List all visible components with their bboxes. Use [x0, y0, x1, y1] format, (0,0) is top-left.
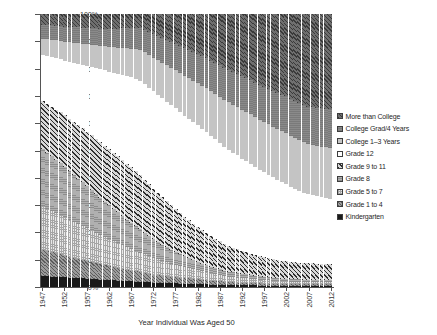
bar-segment — [178, 73, 182, 112]
bar-column — [258, 14, 262, 287]
bar-segment — [267, 175, 271, 258]
bar-segment — [205, 14, 209, 58]
bar-segment — [200, 271, 204, 279]
x-axis-title: Year Individual Was Aged 50 — [0, 318, 373, 327]
bar-segment — [68, 27, 72, 42]
bar-segment — [222, 285, 226, 287]
bar-segment — [297, 14, 301, 103]
legend-item[interactable]: Grade 5 to 7 — [337, 188, 437, 196]
bar-segment — [289, 136, 293, 187]
bar-segment — [72, 278, 76, 287]
bar-segment — [209, 14, 213, 61]
bar-column — [178, 14, 182, 287]
legend-item[interactable]: College 1–3 Years — [337, 137, 437, 145]
bar-segment — [85, 228, 89, 261]
legend-item[interactable]: College Grad/4 Years — [337, 125, 437, 133]
bar-segment — [41, 250, 45, 276]
bar-segment — [280, 14, 284, 95]
bar-segment — [68, 62, 72, 119]
bar-segment — [68, 14, 72, 27]
bar-segment — [98, 235, 102, 264]
bar-segment — [320, 197, 324, 263]
bar-segment — [306, 14, 310, 107]
bar-segment — [231, 14, 235, 72]
bar-segment — [174, 265, 178, 277]
bar-segment — [90, 14, 94, 28]
bar-segment — [306, 144, 310, 194]
bar-segment — [240, 110, 244, 159]
bar-segment — [205, 272, 209, 280]
bar-segment — [289, 14, 293, 99]
x-axis-tick — [64, 287, 65, 291]
bar-segment — [209, 273, 213, 280]
bar-segment — [76, 64, 80, 125]
bar-segment — [72, 258, 76, 278]
bar-segment — [152, 239, 156, 258]
bar-segment — [267, 14, 271, 89]
bar-segment — [205, 88, 209, 132]
bar-segment — [191, 260, 195, 269]
bar-segment — [302, 263, 306, 280]
legend-item[interactable]: Grade 8 — [337, 175, 437, 183]
bar-segment — [50, 40, 54, 57]
legend-item[interactable]: Grade 9 to 11 — [337, 162, 437, 170]
bar-segment — [178, 284, 182, 288]
bar-segment — [227, 70, 231, 102]
bar-segment — [156, 242, 160, 259]
bar-segment — [45, 39, 49, 56]
bar-segment — [116, 74, 120, 157]
bar-segment — [76, 259, 80, 278]
legend-item[interactable]: Grade 12 — [337, 150, 437, 158]
bar-column — [191, 14, 195, 287]
bar-segment — [311, 195, 315, 263]
bar-column — [165, 14, 169, 287]
bar-segment — [178, 213, 182, 254]
bar-segment — [169, 68, 173, 105]
legend-item[interactable]: Grade 1 to 4 — [337, 200, 437, 208]
bar-segment — [174, 209, 178, 252]
bar-column — [107, 14, 111, 287]
x-axis-tick-label: 1977 — [171, 292, 180, 308]
x-axis-tick-label: 2012 — [327, 292, 336, 308]
bar-segment — [63, 27, 67, 42]
bar-segment — [227, 14, 231, 70]
legend-item[interactable]: More than College — [337, 112, 437, 120]
bar-segment — [200, 129, 204, 230]
bar-segment — [116, 29, 120, 48]
legend-swatch-icon — [337, 138, 343, 144]
bar-column — [200, 14, 204, 287]
bar-segment — [231, 153, 235, 248]
bar-column — [121, 14, 125, 287]
bar-segment — [165, 102, 169, 202]
bar-segment — [236, 107, 240, 155]
bar-segment — [129, 167, 133, 222]
bar-segment — [116, 268, 120, 281]
legend-item[interactable]: Kindergarten — [337, 213, 437, 221]
bar-segment — [267, 124, 271, 175]
bar-column — [240, 14, 244, 287]
bar-segment — [85, 132, 89, 187]
bar-segment — [275, 286, 279, 287]
bar-segment — [324, 14, 328, 109]
x-axis-tick — [42, 287, 43, 291]
legend-item-label: College 1–3 Years — [346, 138, 400, 145]
bar-segment — [284, 261, 288, 279]
bar-segment — [262, 257, 266, 277]
bar-segment — [107, 14, 111, 29]
bar-segment — [54, 40, 58, 58]
bar-segment — [324, 147, 328, 198]
bar-segment — [41, 206, 45, 250]
bar-segment — [244, 112, 248, 161]
x-axis-tick — [286, 287, 287, 291]
bar-segment — [94, 233, 98, 264]
bar-segment — [218, 97, 222, 143]
bar-segment — [160, 261, 164, 276]
bar-column — [134, 14, 138, 287]
bar-segment — [68, 119, 72, 171]
bar-segment — [240, 251, 244, 274]
bar-segment — [275, 180, 279, 260]
bar-segment — [98, 29, 102, 46]
bar-column — [125, 14, 129, 287]
bar-segment — [68, 257, 72, 278]
bar-column — [320, 14, 324, 287]
